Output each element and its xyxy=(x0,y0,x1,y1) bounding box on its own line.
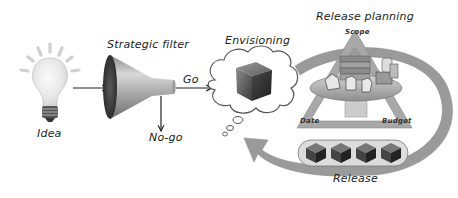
lightbulb-icon xyxy=(21,44,79,122)
scope-label: Scope xyxy=(345,28,370,36)
idea-label: Idea xyxy=(37,127,62,140)
product-cube-icon xyxy=(236,62,272,101)
release-planning-label: Release planning xyxy=(316,10,414,23)
go-label: Go xyxy=(183,73,199,86)
no-go-label: No-go xyxy=(149,131,183,144)
planning-table-icon xyxy=(310,56,402,117)
funnel-icon xyxy=(103,55,176,119)
envisioning-label: Envisioning xyxy=(225,34,290,47)
budget-label: Budget xyxy=(382,117,412,125)
date-label: Date xyxy=(300,117,319,125)
strategic-filter-label: Strategic filter xyxy=(107,38,189,51)
diagram-canvas xyxy=(0,0,458,198)
release-label: Release xyxy=(333,172,378,185)
release-cubes-container xyxy=(298,140,408,166)
